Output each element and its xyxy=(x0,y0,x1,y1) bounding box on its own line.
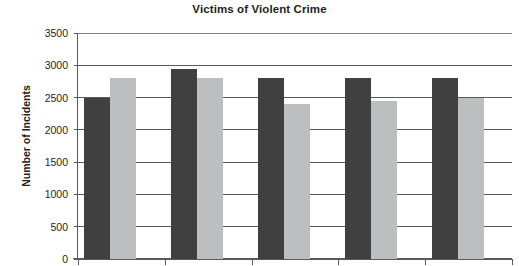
y-axis-tick-label: 2500 xyxy=(0,93,68,104)
bar-chart: Victims of Violent Crime Number of Incid… xyxy=(0,0,519,266)
bar xyxy=(371,101,397,259)
bar xyxy=(171,69,197,259)
bar xyxy=(258,78,284,259)
y-axis-tick-mark xyxy=(74,194,78,195)
y-axis-tick-labels: 0500100015002000250030003500 xyxy=(0,33,70,259)
x-axis-tick-mark xyxy=(512,259,513,265)
y-axis-line xyxy=(77,33,78,259)
x-axis-tick-mark xyxy=(78,259,79,265)
bar xyxy=(432,78,458,259)
x-axis-tick-mark xyxy=(252,259,253,265)
y-axis-tick-label: 1500 xyxy=(0,157,68,168)
y-axis-tick-mark xyxy=(74,129,78,130)
gridline xyxy=(78,33,512,34)
bar xyxy=(284,104,310,259)
y-axis-tick-label: 3500 xyxy=(0,28,68,39)
y-axis-tick-label: 500 xyxy=(0,222,68,233)
y-axis-tick-mark xyxy=(74,162,78,163)
y-axis-tick-label: 3000 xyxy=(0,60,68,71)
bar xyxy=(345,78,371,259)
bar xyxy=(84,98,110,259)
y-axis-tick-label: 1000 xyxy=(0,189,68,200)
bar xyxy=(458,98,484,259)
gridline xyxy=(78,65,512,66)
y-axis-tick-label: 2000 xyxy=(0,125,68,136)
y-axis-tick-label: 0 xyxy=(0,254,68,265)
x-axis-tick-mark xyxy=(425,259,426,265)
bar xyxy=(110,78,136,259)
y-axis-tick-mark xyxy=(74,97,78,98)
bar xyxy=(197,78,223,259)
chart-title: Victims of Violent Crime xyxy=(0,3,519,15)
plot-area xyxy=(78,33,512,259)
y-axis-tick-mark xyxy=(74,226,78,227)
x-axis-tick-mark xyxy=(165,259,166,265)
y-axis-tick-mark xyxy=(74,33,78,34)
x-axis-tick-mark xyxy=(338,259,339,265)
y-axis-tick-mark xyxy=(74,65,78,66)
